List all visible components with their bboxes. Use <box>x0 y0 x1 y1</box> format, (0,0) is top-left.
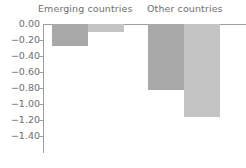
bar <box>148 24 184 90</box>
bar <box>184 24 220 117</box>
bar <box>88 24 124 32</box>
bar <box>52 24 88 46</box>
y-axis-tick-mark <box>39 88 43 89</box>
y-axis-tick-mark <box>39 56 43 57</box>
y-axis-tick-mark <box>39 104 43 105</box>
y-axis-tick-mark <box>39 120 43 121</box>
plot-area <box>0 0 246 168</box>
bar-chart: Emerging countries Other countries 0.00−… <box>0 0 246 168</box>
y-axis-tick-mark <box>39 40 43 41</box>
y-axis-tick-mark <box>39 72 43 73</box>
y-axis-tick-mark <box>39 136 43 137</box>
